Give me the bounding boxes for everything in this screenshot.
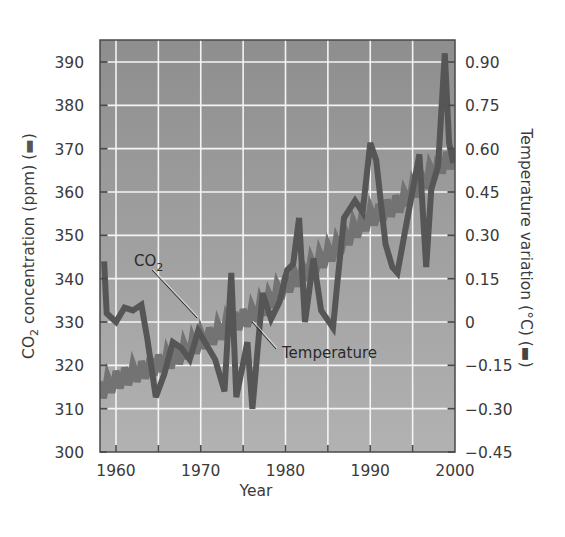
left-axis-title: CO2 concentration (ppm) (▬) (20, 133, 41, 359)
y-tick-label: 380 (54, 97, 84, 115)
x-tick-label: 1960 (96, 462, 135, 480)
y-tick-label: 330 (54, 314, 84, 332)
y-right-tick-label: 0.30 (465, 227, 500, 245)
y-tick-label: 310 (54, 401, 84, 419)
x-axis-title: Year (239, 482, 273, 500)
y-tick-label: 390 (54, 54, 84, 72)
y-right-tick-label: 0.45 (465, 184, 500, 202)
temperature-legend-swatch: ▬ (517, 347, 535, 362)
y-right-tick-label: 0.15 (465, 271, 500, 289)
svg-text:CO2 concentration (ppm) (▬): CO2 concentration (ppm) (▬) (20, 133, 41, 359)
right-axis-title: Temperature variation (°C) (▬) (517, 128, 535, 368)
y-right-tick-label: 0.90 (465, 54, 500, 72)
co2-legend-swatch: ▬ (20, 139, 38, 154)
y-right-tick-label: −0.30 (465, 401, 513, 419)
y-tick-label: 350 (54, 227, 84, 245)
y-right-tick-label: 0.75 (465, 97, 500, 115)
y-right-tick-label: −0.45 (465, 444, 513, 462)
y-tick-label: 360 (54, 184, 84, 202)
y-tick-label: 320 (54, 357, 84, 375)
x-tick-label: 1980 (266, 462, 305, 480)
y-right-tick-label: 0.60 (465, 141, 500, 159)
x-tick-label: 1970 (181, 462, 220, 480)
y-tick-label: 370 (54, 141, 84, 159)
x-tick-label: 1990 (351, 462, 390, 480)
x-tick-label: 2000 (435, 462, 474, 480)
co2-temperature-chart: CO2 Temperature 300310320330340350360370… (0, 0, 565, 537)
y-right-tick-label: −0.15 (465, 357, 513, 375)
y-tick-label: 340 (54, 271, 84, 289)
y-tick-label: 300 (54, 444, 84, 462)
svg-text:Temperature variation (°C) (▬): Temperature variation (°C) (▬) (517, 128, 535, 368)
y-right-tick-label: 0 (465, 314, 475, 332)
temperature-annotation: Temperature (281, 344, 377, 362)
